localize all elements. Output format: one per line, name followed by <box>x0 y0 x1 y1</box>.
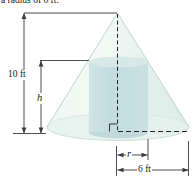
figure-canvas <box>0 0 193 184</box>
cone-radius-dimension <box>118 168 189 172</box>
cylinder-radius-label: r <box>126 149 132 160</box>
cylinder-radius-dimension <box>118 153 148 157</box>
cylinder-height-label: h <box>36 93 43 104</box>
cone-radius-label: 6 ft <box>137 165 152 175</box>
cone-cylinder-figure: a radius of 6 ft. <box>0 0 193 184</box>
cone-height-label: 10 ft <box>7 70 27 80</box>
